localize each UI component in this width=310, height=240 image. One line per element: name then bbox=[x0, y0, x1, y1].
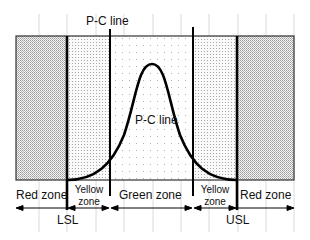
red-zone-left-label: Red zone bbox=[16, 189, 67, 201]
zone-red-left bbox=[16, 36, 67, 180]
zone-yellow-left bbox=[67, 36, 110, 180]
zone-yellow-right bbox=[193, 36, 237, 180]
lsl-label: LSL bbox=[57, 214, 78, 226]
pc-line-top-label: P-C line bbox=[86, 15, 129, 27]
yellow-zone-right-label: Yellow zone bbox=[196, 185, 234, 207]
yellow-zone-left-label: Yellow zone bbox=[70, 185, 108, 207]
green-zone-label: Green zone bbox=[119, 189, 182, 201]
zone-arrows bbox=[16, 206, 294, 211]
zone-red-right bbox=[237, 36, 294, 180]
red-zone-right-label: Red zone bbox=[240, 189, 291, 201]
pc-line-curve-label: P-C line bbox=[135, 114, 178, 126]
zone-green bbox=[110, 36, 193, 180]
usl-label: USL bbox=[226, 214, 249, 226]
